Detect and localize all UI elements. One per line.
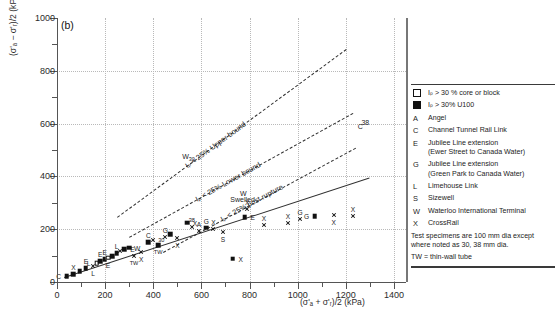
legend-item-label-line1: Channel Tunnel Rail Link	[428, 126, 507, 134]
legend-tw-note: TW = thin-wall tube	[411, 253, 555, 262]
legend-item-label: Limehouse Link	[428, 182, 555, 191]
legend-item-label-line1: Jubilee Line extension	[428, 139, 498, 147]
y-tick-label: 0	[50, 277, 55, 287]
legend-item-label: Angel	[428, 114, 555, 123]
legend-item-label: Jubilee Line extension(Ewer Street to Ca…	[428, 139, 555, 158]
data-point-marker	[64, 274, 69, 279]
legend-item-label-line2: (Ewer Street to Canada Water)	[428, 148, 555, 157]
legend-item-x: XCrossRail	[411, 219, 555, 228]
x-tick-minor	[225, 282, 226, 287]
y-tick-minor	[52, 44, 57, 45]
x-tick-label: 400	[146, 290, 161, 300]
legend-item-label: Channel Tunnel Rail Link	[428, 126, 555, 135]
legend-item-label: CrossRail	[428, 219, 555, 228]
legend-item-label-line1: Jubilee Line extension	[428, 160, 498, 168]
x-tick-major	[394, 282, 395, 289]
legend: Iₚ > 30 % core or blockIₚ > 30% U100AAng…	[411, 84, 555, 268]
x-tick-label: 1200	[336, 290, 356, 300]
x-tick-label: 1400	[384, 290, 404, 300]
gridline-vertical	[394, 18, 395, 282]
data-point-label: X	[286, 212, 290, 219]
gridline-horizontal	[57, 124, 406, 125]
data-point-marker	[298, 216, 303, 221]
legend-note-line2: where noted as 30, 38 mm dia.	[411, 241, 508, 249]
y-axis-line	[57, 18, 58, 282]
legend-swatch-open-square	[413, 89, 421, 97]
legend-item-w: WWaterloo International Terminal	[411, 207, 555, 216]
data-point-marker	[139, 250, 144, 255]
legend-item-label-line1: Limehouse Link	[428, 182, 478, 190]
data-point-label: G	[298, 208, 303, 215]
legend-item-label: Iₚ > 30% U100	[428, 101, 555, 110]
y-tick-label: 200	[40, 224, 55, 234]
data-point-label: X	[139, 256, 143, 263]
data-point-label: X	[71, 264, 75, 271]
x-tick-major	[250, 282, 251, 289]
legend-item-l: LLimehouse Link	[411, 182, 555, 191]
data-point-label: TW	[154, 249, 163, 255]
x-tick-major	[201, 282, 202, 289]
data-point-marker	[156, 243, 161, 248]
data-point-marker	[221, 229, 226, 234]
legend-key-letter: E	[411, 139, 428, 148]
data-point-marker	[168, 232, 173, 237]
legend-key-letter: A	[411, 114, 428, 123]
data-point-label: G	[204, 217, 209, 224]
data-point-marker	[78, 269, 83, 274]
y-tick-minor	[52, 150, 57, 151]
legend-item-label-line2: (Green Park to Canada Water)	[428, 170, 555, 179]
legend-item-label: Jubilee Line extension(Green Park to Can…	[428, 160, 555, 179]
data-point-label: X	[239, 255, 243, 262]
data-point-marker	[245, 207, 250, 212]
data-point-marker	[331, 213, 336, 218]
legend-item-label-line1: Iₚ > 30% U100	[428, 101, 474, 109]
x-tick-major	[346, 282, 347, 289]
legend-item-label-line1: Waterloo International Terminal	[428, 207, 526, 215]
data-point-marker	[132, 254, 137, 259]
y-axis-title: (σ'ₐ − σ'ᵣ)/2 (kPa)	[8, 0, 18, 56]
legend-item-label: Waterloo International Terminal	[428, 207, 555, 216]
x-tick-label: 1000	[288, 290, 308, 300]
x-tick-label: 600	[194, 290, 209, 300]
x-tick-minor	[322, 282, 323, 287]
data-point-marker	[286, 220, 291, 225]
figure-root: (σ'ₐ − σ'ᵣ)/2 (kPa) (σ'ₐ + σ'ᵣ)/2 (kPa) …	[0, 0, 559, 320]
x-axis-line	[57, 282, 406, 283]
data-point-marker	[261, 223, 266, 228]
y-tick-minor	[52, 97, 57, 98]
x-tick-major	[57, 282, 58, 289]
data-point-marker	[189, 224, 194, 229]
data-point-marker	[84, 266, 89, 271]
legend-key-letter: G	[411, 160, 428, 169]
x-tick-major	[298, 282, 299, 289]
x-tick-minor	[81, 282, 82, 287]
data-point-label: A	[197, 220, 201, 227]
x-tick-major	[153, 282, 154, 289]
y-tick-minor	[52, 256, 57, 257]
legend-key-letter: L	[411, 182, 428, 191]
legend-item-label: Sizewell	[428, 194, 555, 203]
legend-note-line1: Test specimens are 100 mm dia except	[411, 232, 534, 240]
gridline-horizontal	[57, 229, 406, 230]
legend-rows: Iₚ > 30 % core or blockIₚ > 30% U100AAng…	[411, 89, 555, 228]
data-point-marker	[175, 236, 180, 241]
y-tick-label: 1000	[35, 13, 55, 23]
legend-note: Test specimens are 100 mm dia except whe…	[411, 232, 555, 251]
legend-key-swatch	[411, 89, 428, 97]
y-tick-label: 400	[40, 171, 55, 181]
data-point-label: G	[304, 213, 309, 220]
plot-annotation: W30	[182, 153, 195, 162]
gridline-vertical	[346, 18, 347, 282]
x-tick-major	[105, 282, 106, 289]
legend-rule-top	[411, 84, 555, 85]
legend-rule-bottom	[411, 266, 555, 267]
legend-item-label-line1: Sizewell	[428, 194, 454, 202]
y-tick-minor	[52, 203, 57, 204]
y-tick-label: 800	[40, 66, 55, 76]
legend-item-swatch-open: Iₚ > 30 % core or block	[411, 89, 555, 98]
legend-item-label-line1: Angel	[428, 114, 446, 122]
x-tick-minor	[274, 282, 275, 287]
data-point-label: TW	[130, 260, 139, 266]
plot-annotation: Swelled	[230, 196, 255, 203]
legend-key-letter: X	[411, 219, 428, 228]
